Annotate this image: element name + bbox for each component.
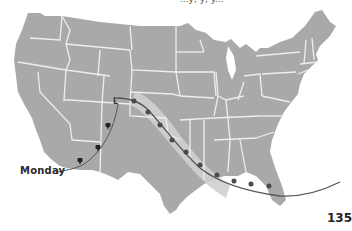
front-marker [146,110,151,115]
front-marker [132,99,137,104]
front-marker [158,123,163,128]
low-pressure-label: L [113,97,118,106]
page-number: 135 [327,211,352,225]
front-marker [249,182,254,187]
front-day-label: Monday [20,165,65,176]
us-landmass [14,10,336,214]
front-marker [232,179,237,184]
front-marker [198,163,203,168]
front-marker [215,173,220,178]
front-marker [170,138,175,143]
front-marker [267,184,272,189]
front-marker [184,150,189,155]
